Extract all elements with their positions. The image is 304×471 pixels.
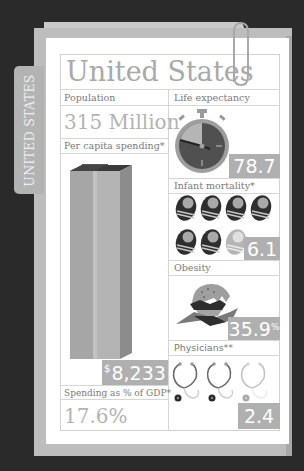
money-stack-icon bbox=[68, 163, 160, 363]
obesity-number: 35.9 bbox=[229, 318, 271, 340]
life-expectancy-label: Life expectancy bbox=[174, 91, 250, 105]
life-expectancy-value: 78.7 bbox=[229, 154, 280, 178]
infant-mortality-label: Infant mortality* bbox=[174, 179, 255, 193]
obesity-unit: % bbox=[271, 322, 280, 332]
infant-mortality-value: 6.1 bbox=[244, 237, 280, 260]
per-capita-value: $ 8,233 bbox=[102, 360, 168, 385]
paperclip-icon bbox=[228, 20, 254, 88]
folder-tab: UNITED STATES bbox=[14, 66, 44, 194]
physicians-label: Physicians** bbox=[174, 341, 233, 355]
folder-tab-label: UNITED STATES bbox=[22, 74, 37, 186]
spending-gdp-label: Spending as % of GDP* bbox=[64, 386, 171, 400]
currency-symbol: $ bbox=[104, 363, 110, 374]
spending-gdp-value: 17.6% bbox=[64, 401, 128, 431]
population-value: 315 Million bbox=[64, 107, 180, 137]
obesity-label: Obesity bbox=[174, 261, 211, 275]
divider bbox=[60, 105, 168, 106]
physicians-value: 2.4 bbox=[238, 403, 280, 429]
divider bbox=[168, 105, 280, 106]
per-capita-amount: 8,233 bbox=[111, 362, 165, 384]
divider bbox=[60, 89, 280, 90]
page-title: United States bbox=[66, 56, 254, 88]
divider bbox=[60, 399, 168, 400]
divider bbox=[60, 153, 168, 154]
per-capita-label: Per capita spending* bbox=[64, 139, 165, 153]
population-label: Population bbox=[64, 91, 115, 105]
stopwatch-icon bbox=[172, 108, 232, 176]
divider bbox=[168, 275, 280, 276]
divider bbox=[168, 355, 280, 356]
obesity-value: 35.9% bbox=[228, 317, 280, 340]
